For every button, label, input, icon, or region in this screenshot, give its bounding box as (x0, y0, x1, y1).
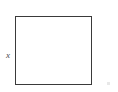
square-shape (15, 16, 92, 85)
figure-canvas: x (0, 0, 118, 92)
side-length-label: x (3, 49, 13, 61)
corner-speck (107, 82, 110, 85)
